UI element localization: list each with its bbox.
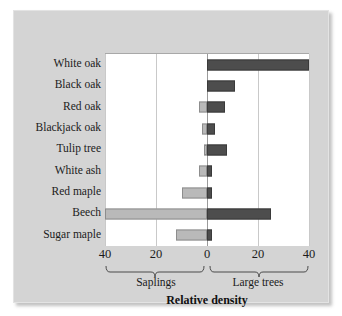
- category-label: Red maple: [21, 181, 101, 202]
- group-label: Saplings: [136, 276, 176, 288]
- bar-large-trees: [207, 123, 215, 134]
- category-label: White oak: [21, 53, 101, 74]
- bar-large-trees: [207, 208, 271, 219]
- bar-large-trees: [207, 80, 235, 91]
- bar-saplings: [176, 230, 207, 241]
- category-label: Sugar maple: [21, 224, 101, 245]
- chart-row: [105, 225, 309, 246]
- bar-large-trees: [207, 187, 212, 198]
- x-tick-label: 0: [204, 247, 210, 262]
- category-label: White ash: [21, 160, 101, 181]
- x-axis-title: Relative density: [105, 293, 309, 308]
- chart-row: [105, 97, 309, 118]
- chart-row: [105, 182, 309, 203]
- chart-row: [105, 161, 309, 182]
- category-label: Blackjack oak: [21, 117, 101, 138]
- chart-row: [105, 75, 309, 96]
- x-tick-label: 40: [99, 247, 112, 262]
- bar-large-trees: [207, 102, 225, 113]
- category-label: Red oak: [21, 96, 101, 117]
- gridline: [309, 54, 310, 246]
- category-label: Beech: [21, 202, 101, 223]
- x-axis-tick-labels: 402002040: [105, 247, 309, 265]
- x-tick-label: 40: [303, 247, 316, 262]
- chart-panel: White oakBlack oakRed oakBlackjack oakTu…: [13, 10, 329, 303]
- bar-large-trees: [207, 144, 227, 155]
- bar-saplings: [199, 166, 207, 177]
- chart-row: [105, 139, 309, 160]
- bar-large-trees: [207, 230, 212, 241]
- chart-row: [105, 203, 309, 224]
- category-axis-labels: White oakBlack oakRed oakBlackjack oakTu…: [19, 53, 101, 245]
- chart-row: [105, 54, 309, 75]
- bar-saplings: [182, 187, 208, 198]
- group-labels: SaplingsLarge trees: [105, 276, 309, 292]
- bar-large-trees: [207, 59, 309, 70]
- category-label: Tulip tree: [21, 138, 101, 159]
- plot-area: [105, 53, 309, 246]
- category-label: Black oak: [21, 74, 101, 95]
- x-tick-label: 20: [252, 247, 265, 262]
- bar-large-trees: [207, 166, 212, 177]
- figure-container: White oakBlack oakRed oakBlackjack oakTu…: [0, 0, 342, 316]
- bar-saplings: [105, 208, 207, 219]
- chart-row: [105, 118, 309, 139]
- bar-saplings: [199, 102, 207, 113]
- x-tick-label: 20: [150, 247, 163, 262]
- group-label: Large trees: [232, 276, 283, 288]
